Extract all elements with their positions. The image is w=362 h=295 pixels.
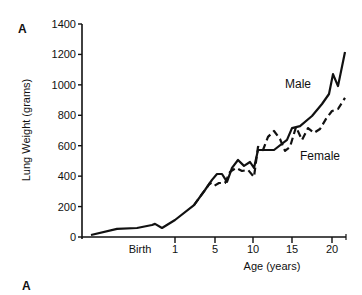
y-tick-label: 400: [58, 170, 76, 182]
series-male-label: Male: [285, 77, 311, 91]
x-tick-label: 5: [212, 243, 218, 255]
lung-weight-chart: A A 0200400600800100012001400 Birth15101…: [0, 0, 362, 295]
y-tick-label: 200: [58, 201, 76, 213]
y-tick-label: 1400: [52, 18, 76, 30]
y-tick-label: 800: [58, 109, 76, 121]
y-tick-label: 1000: [52, 79, 76, 91]
y-tick-label: 0: [70, 231, 76, 243]
x-axis: Birth15101520: [82, 234, 346, 255]
x-tick-label: 15: [286, 243, 298, 255]
x-tick-label: 20: [326, 243, 338, 255]
y-tick-label: 600: [58, 140, 76, 152]
panel-label-bottom: A: [22, 279, 31, 293]
y-tick-label: 1200: [52, 48, 76, 60]
x-tick-label: 1: [172, 243, 178, 255]
x-tick-label: 10: [247, 243, 259, 255]
series-female-label: Female: [300, 149, 340, 163]
x-tick-label: Birth: [129, 243, 152, 255]
series-group: MaleFemale: [91, 52, 345, 235]
x-axis-label: Age (years): [244, 260, 301, 272]
panel-label-top: A: [18, 22, 27, 36]
y-axis-label: Lung Weight (grams): [20, 79, 32, 182]
y-axis: 0200400600800100012001400: [52, 18, 82, 243]
